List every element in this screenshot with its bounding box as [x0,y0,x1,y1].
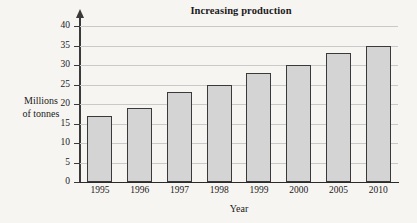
bar [246,73,271,182]
bar [87,116,112,182]
x-tick-label: 1996 [118,186,162,196]
gridline [80,46,398,47]
y-tick-label: 20 [40,99,70,109]
y-tick-mark [74,124,80,125]
y-tick-label: 25 [40,80,70,90]
bar-chart: Increasing production Millions of tonnes… [0,0,417,223]
x-tick-label: 2010 [356,186,400,196]
y-tick-mark [74,85,80,86]
x-tick-label: 1997 [157,186,201,196]
y-tick-label: 35 [40,41,70,51]
bar [326,53,351,182]
x-axis-title: Year [80,203,398,214]
bar [207,85,232,183]
y-tick-mark [74,65,80,66]
chart-title: Increasing production [96,5,386,16]
x-tick-label: 2000 [277,186,321,196]
x-tick-label: 2005 [316,186,360,196]
plot-area [80,26,398,182]
bar [127,108,152,182]
bar [286,65,311,182]
x-tick-label: 1998 [197,186,241,196]
y-tick-mark [74,46,80,47]
y-tick-mark [74,182,80,183]
bar [167,92,192,182]
y-tick-label: 40 [40,21,70,31]
gridline [80,182,398,183]
x-tick-label: 1995 [78,186,122,196]
y-tick-mark [74,104,80,105]
y-tick-label: 0 [40,177,70,187]
x-tick-label: 1999 [237,186,281,196]
bar [366,46,391,183]
y-tick-mark [74,163,80,164]
y-tick-mark [74,143,80,144]
gridline [80,26,398,27]
y-tick-label: 5 [40,158,70,168]
y-tick-mark [74,26,80,27]
y-tick-label: 30 [40,60,70,70]
y-tick-label: 10 [40,138,70,148]
y-tick-label: 15 [40,119,70,129]
